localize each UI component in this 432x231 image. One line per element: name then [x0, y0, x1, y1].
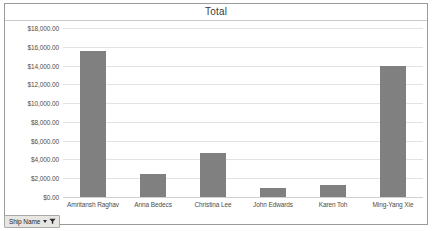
y-axis-tick-label: $4,000.00 [7, 156, 59, 163]
y-axis-tick-label: $2,000.00 [7, 175, 59, 182]
bar-slot [123, 21, 183, 224]
bar-slot [63, 21, 123, 224]
bar[interactable] [80, 51, 106, 197]
x-axis-tick-label: Karen Toh [319, 201, 348, 208]
y-axis-tick-label: $6,000.00 [7, 137, 59, 144]
chart-window: Total $0.00$2,000.00$4,000.00$6,000.00$8… [0, 0, 432, 231]
funnel-icon[interactable] [49, 218, 56, 226]
bar-slot [363, 21, 423, 224]
bar[interactable] [200, 153, 226, 197]
y-axis-tick-label: $12,000.00 [7, 81, 59, 88]
chevron-down-icon[interactable] [43, 220, 47, 223]
bar-slot [183, 21, 243, 224]
x-axis-tick-label: Amritansh Raghav [67, 201, 119, 208]
bar[interactable] [140, 174, 166, 197]
x-axis-tick-label: Christina Lee [195, 201, 232, 208]
y-axis-tick-label: $18,000.00 [7, 25, 59, 32]
y-axis-tick-label: $16,000.00 [7, 43, 59, 50]
y-axis-tick-label: $10,000.00 [7, 100, 59, 107]
chart-frame: Total $0.00$2,000.00$4,000.00$6,000.00$8… [4, 3, 428, 225]
y-axis-tick-label: $14,000.00 [7, 62, 59, 69]
plot-area: $0.00$2,000.00$4,000.00$6,000.00$8,000.0… [5, 21, 427, 224]
bar-series [63, 21, 423, 224]
x-axis-tick-label: John Edwards [253, 201, 293, 208]
bar-slot [243, 21, 303, 224]
bar[interactable] [380, 66, 406, 197]
bar[interactable] [320, 185, 346, 197]
bar[interactable] [260, 188, 286, 197]
chart-title: Total [5, 4, 427, 20]
y-axis-tick-label: $8,000.00 [7, 118, 59, 125]
x-axis-tick-label: Ming-Yang Xie [373, 201, 414, 208]
bar-slot [303, 21, 363, 224]
x-axis-tick-label: Anna Bedecs [134, 201, 172, 208]
ship-name-filter-label: Ship Name [9, 218, 40, 225]
y-axis-tick-label: $0.00 [7, 194, 59, 201]
ship-name-filter-button[interactable]: Ship Name [4, 215, 60, 228]
